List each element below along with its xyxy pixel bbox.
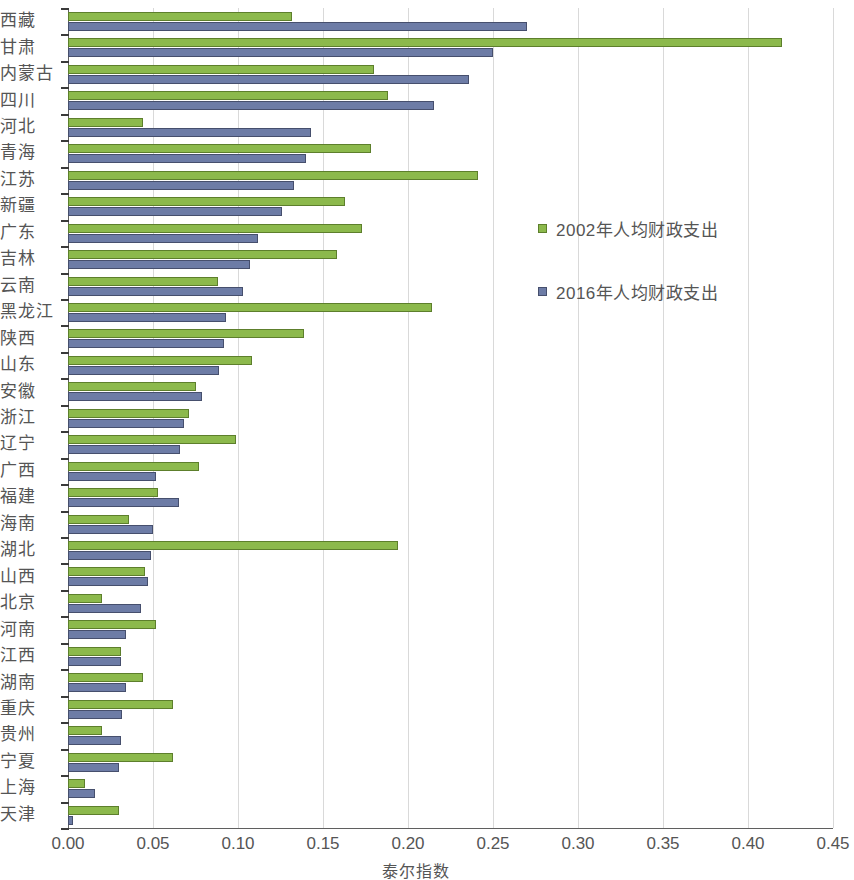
y-axis-tick xyxy=(61,325,69,327)
bar-2016 xyxy=(68,181,294,190)
category-label: 重庆 xyxy=(0,699,62,718)
bar-2002 xyxy=(68,409,189,418)
x-tick-label: 0.35 xyxy=(633,834,693,854)
category-label: 河北 xyxy=(0,117,62,136)
gridline xyxy=(578,8,579,828)
x-tick-label: 0.30 xyxy=(548,834,608,854)
category-label: 北京 xyxy=(0,593,62,612)
bar-2002 xyxy=(68,673,143,682)
bar-2002 xyxy=(68,462,199,471)
y-axis-tick xyxy=(61,775,69,777)
bar-2016 xyxy=(68,789,95,798)
category-label: 陕西 xyxy=(0,329,62,348)
bar-2002 xyxy=(68,594,102,603)
category-label: 吉林 xyxy=(0,249,62,268)
x-tick-label: 0.20 xyxy=(378,834,438,854)
category-label: 江西 xyxy=(0,646,62,665)
bar-2016 xyxy=(68,710,122,719)
y-axis-tick xyxy=(61,749,69,751)
category-label: 湖南 xyxy=(0,673,62,692)
bar-2016 xyxy=(68,630,126,639)
y-axis-tick xyxy=(61,8,69,10)
bar-2016 xyxy=(68,445,180,454)
y-axis-tick xyxy=(61,669,69,671)
bar-2002 xyxy=(68,329,304,338)
bar-2002 xyxy=(68,277,218,286)
y-axis-tick xyxy=(61,140,69,142)
category-label: 江苏 xyxy=(0,170,62,189)
bar-2002 xyxy=(68,700,173,709)
bar-2002 xyxy=(68,753,173,762)
y-axis-tick xyxy=(61,61,69,63)
bar-2016 xyxy=(68,683,126,692)
y-axis-tick xyxy=(61,193,69,195)
x-axis-title: 泰尔指数 xyxy=(0,858,832,880)
bar-2016 xyxy=(68,604,141,613)
y-axis-tick xyxy=(61,828,69,830)
category-label: 广东 xyxy=(0,223,62,242)
bar-2002 xyxy=(68,382,196,391)
gridline xyxy=(833,8,834,828)
legend-item-2016[interactable]: 2016年人均财政支出 xyxy=(538,279,718,304)
y-axis-tick xyxy=(61,273,69,275)
bar-2016 xyxy=(68,313,226,322)
bar-2002 xyxy=(68,224,362,233)
bar-2016 xyxy=(68,419,184,428)
bar-2016 xyxy=(68,525,153,534)
category-label: 上海 xyxy=(0,778,62,797)
bar-2002 xyxy=(68,144,371,153)
bar-2016 xyxy=(68,128,311,137)
bar-2016 xyxy=(68,472,156,481)
bar-2016 xyxy=(68,736,121,745)
y-axis-tick xyxy=(61,616,69,618)
legend-item-2002[interactable]: 2002年人均财政支出 xyxy=(538,216,718,241)
bar-2016 xyxy=(68,154,306,163)
bar-2002 xyxy=(68,118,143,127)
category-label: 黑龙江 xyxy=(0,302,62,321)
bar-2016 xyxy=(68,657,121,666)
legend-label-2002: 2002年人均财政支出 xyxy=(556,216,718,241)
x-axis-line xyxy=(68,828,833,829)
bar-2016 xyxy=(68,234,258,243)
y-axis-tick xyxy=(61,484,69,486)
x-tick-label: 0.25 xyxy=(463,834,523,854)
bar-2002 xyxy=(68,435,236,444)
category-label: 贵州 xyxy=(0,725,62,744)
bar-2002 xyxy=(68,65,374,74)
y-axis-tick xyxy=(61,352,69,354)
bar-2016 xyxy=(68,101,434,110)
category-label: 宁夏 xyxy=(0,752,62,771)
y-axis-tick xyxy=(61,643,69,645)
x-tick-label: 0.00 xyxy=(38,834,98,854)
bar-2002 xyxy=(68,303,432,312)
bar-2002 xyxy=(68,515,129,524)
category-label: 海南 xyxy=(0,514,62,533)
y-axis-tick xyxy=(61,590,69,592)
bar-2002 xyxy=(68,620,156,629)
bar-2016 xyxy=(68,551,151,560)
category-label: 福建 xyxy=(0,487,62,506)
bar-2016 xyxy=(68,392,202,401)
category-label: 天津 xyxy=(0,805,62,824)
legend-swatch-2016 xyxy=(538,287,547,296)
y-axis-tick xyxy=(61,87,69,89)
x-tick-label: 0.05 xyxy=(123,834,183,854)
y-axis-tick xyxy=(61,802,69,804)
bar-2016 xyxy=(68,816,73,825)
y-axis-tick xyxy=(61,220,69,222)
bar-2016 xyxy=(68,287,243,296)
bar-2016 xyxy=(68,763,119,772)
y-axis-tick xyxy=(61,696,69,698)
gridline xyxy=(323,8,324,828)
x-tick-label: 0.10 xyxy=(208,834,268,854)
bar-2002 xyxy=(68,647,121,656)
y-axis-tick xyxy=(61,458,69,460)
category-label: 内蒙古 xyxy=(0,64,62,83)
category-label: 浙江 xyxy=(0,408,62,427)
y-axis-tick xyxy=(61,34,69,36)
bar-2002 xyxy=(68,171,478,180)
gridline xyxy=(748,8,749,828)
x-tick-label: 0.15 xyxy=(293,834,353,854)
y-axis-tick xyxy=(61,167,69,169)
